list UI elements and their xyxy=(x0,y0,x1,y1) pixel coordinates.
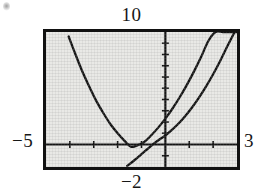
series-parabola xyxy=(69,32,237,147)
window-xmin-label: −5 xyxy=(12,131,33,150)
plot-canvas xyxy=(46,32,237,167)
window-ymin-label: −2 xyxy=(0,172,263,191)
calculator-screen xyxy=(43,29,240,170)
graphing-calculator-figure: 10 −5 3 −2 xyxy=(0,0,263,196)
window-xmax-label: 3 xyxy=(244,131,254,150)
series-second-curve xyxy=(127,32,234,166)
window-ymax-label: 10 xyxy=(0,5,263,24)
calculator-screen-inner xyxy=(46,32,237,167)
